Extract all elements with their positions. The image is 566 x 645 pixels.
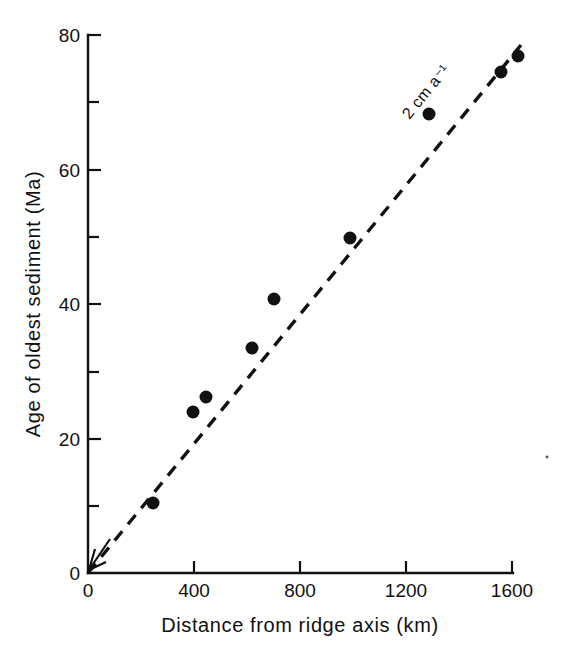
data-point <box>268 293 281 306</box>
y-axis-ticks <box>88 35 101 506</box>
x-tick-label-1200: 1200 <box>385 580 427 601</box>
data-point-series <box>147 50 525 510</box>
data-point <box>344 232 357 245</box>
axes-group <box>88 35 513 573</box>
scan-artifact-speck <box>546 456 549 459</box>
data-point <box>495 66 508 79</box>
x-tick-label-400: 400 <box>178 580 210 601</box>
x-tick-label-0: 0 <box>83 580 94 601</box>
y-axis-title-group: Age of oldest sediment (Ma) <box>22 171 44 437</box>
x-axis-tick-labels: 0 400 800 1200 1600 <box>83 580 533 601</box>
data-point <box>200 391 213 404</box>
x-tick-label-1600: 1600 <box>491 580 533 601</box>
y-tick-label-80: 80 <box>59 25 80 46</box>
y-tick-label-0: 0 <box>69 563 80 584</box>
scatter-chart: 80 60 40 20 0 0 400 800 1200 1600 <box>0 0 566 645</box>
y-axis-title: Age of oldest sediment (Ma) <box>22 171 44 437</box>
figure-container: 80 60 40 20 0 0 400 800 1200 1600 <box>0 0 566 645</box>
y-axis-tick-labels: 80 60 40 20 0 <box>59 25 80 584</box>
data-point <box>147 497 160 510</box>
y-tick-label-60: 60 <box>59 160 80 181</box>
data-point <box>423 108 436 121</box>
y-tick-label-40: 40 <box>59 294 80 315</box>
data-point <box>187 406 200 419</box>
x-tick-label-800: 800 <box>284 580 316 601</box>
x-axis-title: Distance from ridge axis (km) <box>161 614 438 636</box>
x-axis-ticks <box>194 561 512 573</box>
y-tick-label-20: 20 <box>59 429 80 450</box>
data-point <box>246 342 259 355</box>
data-point <box>512 50 525 63</box>
trend-line-dashed <box>88 45 521 573</box>
